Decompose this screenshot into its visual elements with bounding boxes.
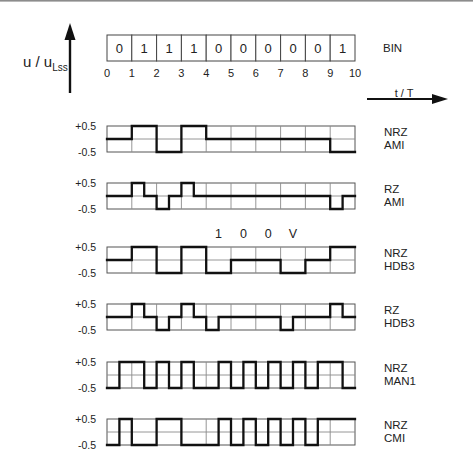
x-axis: t / T (367, 87, 448, 104)
bin-digit: 1 (339, 41, 346, 56)
bin-digit: 0 (314, 41, 321, 56)
code-label-line2: MAN1 (384, 375, 416, 387)
code-label-line1: RZ (384, 304, 399, 316)
waveforms: +0.5-0.5NRZAMI+0.5-0.5RZAMI+0.5-0.5NRZHD… (75, 120, 416, 452)
waveform-rz-ami: +0.5-0.5RZAMI (75, 177, 404, 216)
bin-digit: 0 (215, 41, 222, 56)
binary-sequence: 0111000001BIN (107, 35, 402, 61)
level-label-positive: +0.5 (75, 356, 96, 368)
top-border-line (0, 0, 473, 2)
line-code-diagram: u / uLss t / T 0111000001BIN 01234567891… (0, 0, 473, 473)
signal-trace (107, 362, 355, 388)
level-label-positive: +0.5 (75, 120, 96, 132)
code-label-line1: RZ (384, 183, 399, 195)
substitution-annotation: V (289, 227, 298, 241)
x-tick-label: 9 (327, 67, 333, 79)
x-tick-label: 10 (349, 67, 361, 79)
level-label-negative: -0.5 (78, 146, 96, 158)
x-tick-label: 4 (203, 67, 209, 79)
y-axis-label-main: u / u (23, 53, 52, 70)
level-label-negative: -0.5 (78, 324, 96, 336)
level-label-negative: -0.5 (78, 267, 96, 279)
level-label-positive: +0.5 (75, 241, 96, 253)
bin-label: BIN (383, 42, 402, 54)
x-tick-label: 2 (154, 67, 160, 79)
code-label-line2: AMI (384, 139, 404, 151)
waveform-nrz-hdb3: +0.5-0.5NRZHDB3 (75, 241, 414, 280)
y-axis: u / uLss (23, 23, 76, 93)
code-label-line2: AMI (384, 196, 404, 208)
level-label-negative: -0.5 (78, 203, 96, 215)
level-label-positive: +0.5 (75, 413, 96, 425)
y-axis-arrowhead-icon (65, 23, 76, 40)
x-tick-label: 8 (302, 67, 308, 79)
bin-digit: 0 (116, 41, 123, 56)
waveform-rz-hdb3: +0.5-0.5RZHDB3 (75, 298, 414, 337)
x-tick-label: 7 (278, 67, 284, 79)
bin-digit: 0 (289, 41, 296, 56)
level-label-negative: -0.5 (78, 439, 96, 451)
substitution-annotation: 1 (215, 227, 222, 241)
code-label-line1: NRZ (384, 362, 408, 374)
code-label-line1: NRZ (384, 419, 408, 431)
waveform-nrz-ami: +0.5-0.5NRZAMI (75, 120, 407, 159)
x-tick-label: 0 (104, 67, 110, 79)
x-axis-arrowhead-icon (432, 94, 448, 104)
substitution-annotation: 0 (240, 227, 247, 241)
level-label-positive: +0.5 (75, 298, 96, 310)
bin-digit: 1 (165, 41, 172, 56)
x-tick-label: 3 (178, 67, 184, 79)
y-axis-label: u / uLss (23, 53, 68, 73)
annotations: 100V (215, 227, 298, 241)
waveform-nrz-man1: +0.5-0.5NRZMAN1 (75, 356, 416, 395)
bin-digit: 1 (190, 41, 197, 56)
time-ticks: 012345678910 (104, 67, 361, 79)
code-label-line1: NRZ (384, 247, 408, 259)
x-tick-label: 6 (253, 67, 259, 79)
code-label-line2: HDB3 (384, 317, 415, 329)
substitution-annotation: 0 (265, 227, 272, 241)
y-axis-label-subscript: Lss (52, 62, 68, 73)
level-label-negative: -0.5 (78, 382, 96, 394)
bin-digit: 0 (265, 41, 272, 56)
x-tick-label: 1 (129, 67, 135, 79)
code-label-line2: CMI (384, 432, 405, 444)
bin-digit: 0 (240, 41, 247, 56)
code-label-line1: NRZ (384, 126, 408, 138)
x-axis-label: t / T (395, 87, 414, 99)
x-tick-label: 5 (228, 67, 234, 79)
code-label-line2: HDB3 (384, 260, 415, 272)
level-label-positive: +0.5 (75, 177, 96, 189)
waveform-nrz-cmi: +0.5-0.5NRZCMI (75, 413, 407, 452)
bin-digit: 1 (141, 41, 148, 56)
